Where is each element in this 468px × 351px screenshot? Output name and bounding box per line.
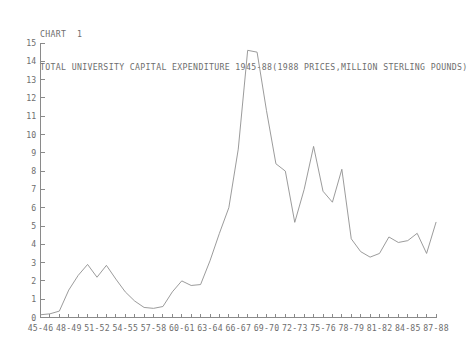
x-axis-tick-label: 60-61 [169, 323, 195, 333]
y-axis-tick-label: 8 [31, 166, 36, 176]
x-axis-tick-label: 87-88 [423, 323, 449, 333]
y-axis-label-group: 0123456789101112131415 [26, 38, 36, 323]
y-axis-tick-label: 2 [31, 276, 36, 286]
y-axis-tick-label: 1 [31, 294, 36, 304]
x-axis-tick-label: 69-70 [254, 323, 280, 333]
x-axis-tick-group [41, 314, 437, 318]
x-axis-tick-label: 81-82 [367, 323, 393, 333]
x-axis-tick-label: 66-67 [225, 323, 251, 333]
x-axis-tick-label: 57-58 [141, 323, 167, 333]
y-axis-tick-label: 6 [31, 203, 36, 213]
y-axis-tick-label: 5 [31, 221, 36, 231]
y-axis-tick-label: 7 [31, 184, 36, 194]
y-axis-tick-label: 9 [31, 148, 36, 158]
x-axis-label-group: 45-4648-4951-5254-5557-5860-6163-6466-67… [28, 323, 449, 333]
y-axis-tick-label: 4 [31, 239, 36, 249]
x-axis-tick-label: 72-73 [282, 323, 308, 333]
x-axis-tick-label: 51-52 [84, 323, 110, 333]
x-axis-tick-label: 84-85 [395, 323, 421, 333]
y-axis-tick-label: 14 [26, 56, 36, 66]
y-axis-tick-label: 10 [26, 130, 36, 140]
y-axis-tick-label: 13 [26, 75, 36, 85]
y-axis-tick-label: 11 [26, 111, 36, 121]
y-axis-tick-label: 12 [26, 93, 36, 103]
x-axis-tick-label: 54-55 [112, 323, 138, 333]
y-axis-tick-label: 0 [31, 313, 36, 323]
x-axis-tick-label: 78-79 [338, 323, 364, 333]
x-axis-tick-label: 75-76 [310, 323, 336, 333]
y-axis-tick-label: 3 [31, 258, 36, 268]
y-axis-tick-group [41, 43, 45, 318]
x-axis-tick-label: 48-49 [56, 323, 82, 333]
expenditure-series-line [41, 50, 437, 314]
x-axis-tick-label: 45-46 [28, 323, 54, 333]
x-axis-tick-label: 63-64 [197, 323, 223, 333]
y-axis-tick-label: 15 [26, 38, 36, 48]
